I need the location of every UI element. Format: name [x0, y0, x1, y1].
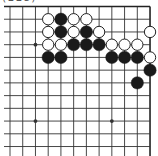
white-stone: [43, 26, 54, 37]
star-point-icon: [110, 119, 114, 123]
white-stone: [68, 26, 79, 37]
black-stone: [67, 39, 79, 51]
star-point-icon: [34, 43, 38, 47]
white-stone: [93, 26, 104, 37]
black-stone: [80, 39, 92, 51]
white-stone: [144, 52, 155, 63]
black-stone: [131, 51, 143, 63]
go-board: [0, 0, 158, 156]
white-stone: [43, 39, 54, 50]
black-stone: [118, 51, 130, 63]
star-point-icon: [34, 119, 38, 123]
black-stone: [93, 39, 105, 51]
white-stone: [55, 39, 66, 50]
black-stone: [144, 64, 156, 76]
black-stone: [80, 26, 92, 38]
black-stone: [131, 77, 143, 89]
black-stone: [106, 51, 118, 63]
black-stone: [42, 51, 54, 63]
white-stone: [119, 39, 130, 50]
black-stone: [55, 51, 67, 63]
black-stone: [55, 26, 67, 38]
black-stone: [55, 13, 67, 25]
white-stone: [43, 14, 54, 25]
white-stone: [132, 39, 143, 50]
white-stone: [68, 14, 79, 25]
white-stone: [81, 14, 92, 25]
white-stone: [106, 39, 117, 50]
white-stone: [144, 26, 155, 37]
